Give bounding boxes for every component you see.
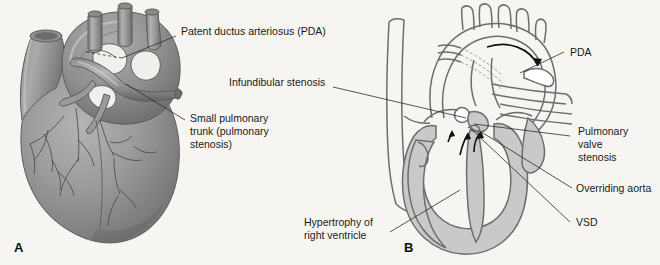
label-infundibular-stenosis: Infundibular stenosis: [229, 76, 325, 88]
left-common-carotid: [118, 6, 132, 47]
brachiocephalic-opening: [88, 11, 102, 17]
label-vsd: VSD: [576, 216, 598, 228]
svc-lumen: [35, 32, 58, 40]
pulmonary-trunk-cut-end: [175, 89, 181, 99]
panel-a-heart-illustration: [20, 3, 182, 243]
medical-illustration-svg: Patent ductus arteriosus (PDA) Small pul…: [0, 0, 660, 265]
label-pulmonary-valve-stenosis-line3: stenosis: [578, 151, 617, 163]
label-pulmonary-valve-stenosis-line1: Pulmonary: [578, 125, 629, 137]
panel-letter-b: B: [404, 240, 413, 255]
label-pda-a: Patent ductus arteriosus (PDA): [181, 25, 326, 37]
label-hypertrophy-line2: right ventricle: [304, 229, 367, 241]
label-pulmonary-trunk-a-line3: stenosis): [190, 138, 232, 150]
label-overriding-aorta: Overriding aorta: [576, 182, 651, 194]
arch-window-right: [131, 51, 160, 80]
figure-container: Patent ductus arteriosus (PDA) Small pul…: [0, 0, 660, 265]
panel-letter-a: A: [14, 240, 24, 255]
label-pulmonary-trunk-a-line2: trunk (pulmonary: [190, 125, 270, 137]
left-subclavian: [146, 12, 161, 50]
subclavian-opening: [145, 9, 159, 15]
brachiocephalic-trunk: [88, 14, 102, 53]
label-pda-b: PDA: [570, 46, 592, 58]
label-pulmonary-valve-stenosis-line2: valve: [578, 138, 603, 150]
label-hypertrophy-line1: Hypertrophy of: [304, 216, 373, 228]
carotid-opening: [118, 3, 132, 9]
label-pulmonary-trunk-a-line1: Small pulmonary: [190, 112, 269, 124]
